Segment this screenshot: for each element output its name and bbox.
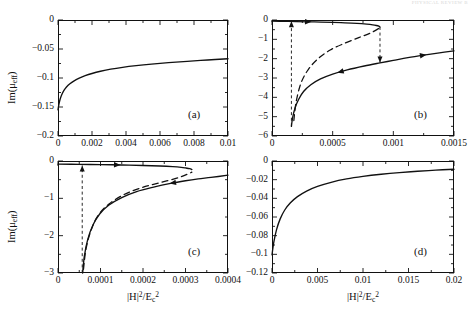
x-axis-title-left: |H|2/Ec2 — [127, 290, 159, 304]
y-tick-label-d: −0.1 — [228, 250, 268, 260]
x-tick-label-d: 0 — [270, 276, 275, 286]
panel-tag-d: (d) — [414, 245, 427, 257]
curve-d-upper-branch — [272, 169, 454, 255]
y-tick-label-d: −0.12 — [228, 268, 268, 278]
y-tick-label-d: −0.06 — [228, 212, 268, 222]
y-axis-title-top: Im(μeff) — [6, 72, 19, 105]
x-tick-label-d: 0.015 — [398, 276, 419, 286]
figure-root: PHYSICAL REVIEW B 00.0020.0040.0060.0080… — [0, 0, 468, 319]
y-tick-label-d: −0.08 — [228, 231, 268, 241]
y-axis-title-bottom: Im(μeff) — [6, 211, 19, 244]
y-tick-label-d: −0.04 — [228, 194, 268, 204]
y-tick-label-d: 0 — [228, 156, 268, 166]
x-tick-label-d: 0.02 — [446, 276, 463, 286]
x-tick-label-d: 0.01 — [355, 276, 372, 286]
panel-d: 00.0050.010.0150.020−0.02−0.04−0.06−0.08… — [0, 0, 468, 319]
x-tick-label-d: 0.005 — [307, 276, 328, 286]
y-tick-label-d: −0.02 — [228, 175, 268, 185]
x-axis-title-right: |H|2/Ec2 — [347, 290, 379, 304]
